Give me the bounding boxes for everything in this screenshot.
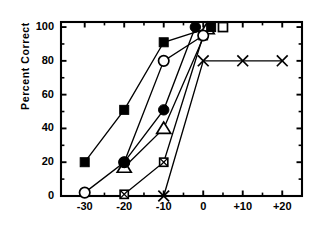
y-tick-label: 60	[18, 88, 54, 100]
chart-figure: Percent Correct 020406080100-30-20-100+1…	[0, 0, 322, 228]
series-line-cross-x	[164, 61, 283, 196]
y-tick-label: 20	[18, 155, 54, 167]
marker-filled-square	[120, 105, 129, 114]
data-point-filled-circle	[119, 157, 129, 167]
x-tick-label: +20	[262, 200, 302, 212]
x-tick-label: -30	[65, 200, 105, 212]
data-point-filled-square	[80, 158, 89, 167]
y-tick-label: 100	[18, 20, 54, 32]
x-tick-label: +10	[223, 200, 263, 212]
y-tick-label: 80	[18, 54, 54, 66]
series-line-filled-square	[85, 27, 211, 162]
data-point-crossed-square	[160, 158, 168, 166]
x-tick-label: 0	[183, 200, 223, 212]
y-tick-label: 0	[18, 189, 54, 201]
marker-open-square	[218, 23, 227, 32]
series-path	[164, 61, 283, 196]
plot-frame	[61, 22, 302, 196]
data-point-filled-square	[159, 38, 168, 47]
data-point-filled-circle	[159, 105, 169, 115]
marker-filled-square	[159, 38, 168, 47]
data-point-filled-square	[207, 23, 216, 32]
data-point-filled-circle	[190, 22, 200, 32]
x-tick-label: -20	[104, 200, 144, 212]
data-point-open-square	[218, 23, 227, 32]
marker-filled-square	[207, 23, 216, 32]
series-line-open-circle	[85, 36, 204, 193]
data-point-open-circle	[80, 187, 90, 197]
x-tick-label: -10	[144, 200, 184, 212]
data-point-open-triangle	[157, 122, 171, 133]
data-point-filled-square	[120, 105, 129, 114]
marker-filled-circle	[159, 105, 169, 115]
marker-filled-circle	[119, 157, 129, 167]
marker-filled-square	[80, 158, 89, 167]
series-path	[85, 27, 211, 162]
marker-open-circle	[80, 187, 90, 197]
marker-open-circle	[159, 56, 169, 66]
data-point-crossed-square	[120, 190, 128, 198]
series-path	[85, 36, 204, 193]
data-point-open-circle	[159, 56, 169, 66]
marker-open-triangle	[157, 122, 171, 133]
marker-filled-circle	[190, 22, 200, 32]
y-tick-label: 40	[18, 121, 54, 133]
